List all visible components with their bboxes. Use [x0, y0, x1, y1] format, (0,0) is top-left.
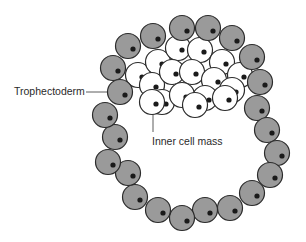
- nucleus-icon: [254, 193, 259, 198]
- nucleus-icon: [207, 210, 212, 215]
- trophectoderm-cell: [218, 196, 243, 221]
- nucleus-icon: [226, 97, 231, 102]
- inner-cell-mass-label: Inner cell mass: [152, 135, 223, 147]
- nucleus-icon: [117, 137, 122, 142]
- trophectoderm-cell: [255, 118, 280, 143]
- nucleus-icon: [115, 68, 120, 73]
- nucleus-icon: [153, 101, 158, 106]
- nucleus-icon: [130, 46, 135, 51]
- nucleus-icon: [269, 130, 274, 135]
- trophectoderm-cell: [170, 206, 195, 231]
- nucleus-icon: [262, 82, 267, 87]
- nucleus-icon: [179, 47, 184, 52]
- trophectoderm-cell: [196, 16, 221, 41]
- trophectoderm-cell: [116, 34, 141, 59]
- nucleus-icon: [137, 197, 142, 202]
- trophectoderm-cell: [240, 45, 265, 70]
- trophectoderm-cell: [265, 141, 290, 166]
- trophectoderm-cell: [245, 96, 270, 121]
- trophectoderm-cell: [93, 103, 118, 128]
- trophectoderm-cell: [146, 198, 171, 223]
- nucleus-icon: [184, 28, 189, 33]
- nucleus-icon: [254, 57, 259, 62]
- nucleus-icon: [110, 162, 115, 167]
- nucleus-icon: [130, 173, 135, 178]
- trophectoderm-cell: [108, 80, 133, 105]
- nucleus-icon: [153, 84, 158, 89]
- nucleus-icon: [122, 92, 127, 97]
- nucleus-icon: [173, 71, 178, 76]
- trophectoderm-cell: [170, 16, 195, 41]
- icm-cell: [140, 90, 165, 115]
- nucleus-icon: [184, 218, 189, 223]
- trophectoderm-cell: [141, 24, 166, 49]
- nucleus-icon: [272, 175, 277, 180]
- trophectoderm-cell: [193, 198, 218, 223]
- icm-cell: [180, 60, 205, 85]
- nucleus-icon: [279, 153, 284, 158]
- nucleus-icon: [234, 38, 239, 43]
- nucleus-icon: [215, 79, 220, 84]
- nucleus-icon: [160, 210, 165, 215]
- nucleus-icon: [223, 61, 228, 66]
- trophectoderm-cell: [123, 185, 148, 210]
- trophectoderm-cell: [101, 56, 126, 81]
- trophectoderm-cell: [103, 125, 128, 150]
- trophectoderm-cell: [220, 26, 245, 51]
- nucleus-icon: [196, 104, 201, 109]
- blastocyst-diagram: Trophectoderm Inner cell mass: [0, 0, 306, 242]
- trophectoderm-cell: [96, 150, 121, 175]
- nucleus-icon: [201, 49, 206, 54]
- trophectoderm-cell: [248, 70, 273, 95]
- trophectoderm-cell: [240, 181, 265, 206]
- icm-cell: [183, 93, 208, 118]
- nucleus-icon: [241, 74, 246, 79]
- nucleus-icon: [210, 28, 215, 33]
- nucleus-icon: [232, 208, 237, 213]
- nucleus-icon: [107, 115, 112, 120]
- trophectoderm-label: Trophectoderm: [14, 85, 85, 97]
- nucleus-icon: [155, 36, 160, 41]
- icm-cell: [213, 86, 238, 111]
- nucleus-icon: [193, 71, 198, 76]
- nucleus-icon: [259, 108, 264, 113]
- icm-cell: [188, 38, 213, 63]
